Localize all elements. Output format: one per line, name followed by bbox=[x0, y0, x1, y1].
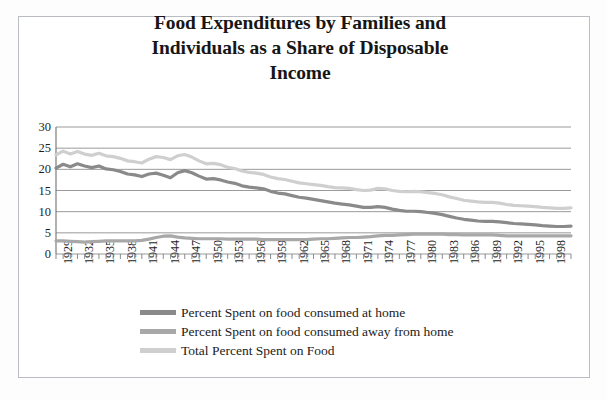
series-line bbox=[56, 234, 571, 242]
legend-item[interactable]: Total Percent Spent on Food bbox=[140, 341, 520, 360]
chart-legend: Percent Spent on food consumed at homePe… bbox=[140, 303, 520, 360]
legend-color-swatch bbox=[140, 310, 176, 315]
series-lines bbox=[56, 151, 571, 242]
chart-figure: Food Expenditures by Families and Indivi… bbox=[0, 0, 607, 400]
axis-ticks bbox=[56, 254, 571, 259]
legend-item[interactable]: Percent Spent on food consumed away from… bbox=[140, 322, 520, 341]
legend-label: Percent Spent on food consumed away from… bbox=[181, 324, 454, 340]
series-line bbox=[56, 164, 571, 227]
legend-color-swatch bbox=[140, 348, 176, 353]
legend-label: Total Percent Spent on Food bbox=[181, 343, 335, 359]
legend-label: Percent Spent on food consumed at home bbox=[181, 305, 405, 321]
legend-color-swatch bbox=[140, 329, 176, 334]
legend-item[interactable]: Percent Spent on food consumed at home bbox=[140, 303, 520, 322]
